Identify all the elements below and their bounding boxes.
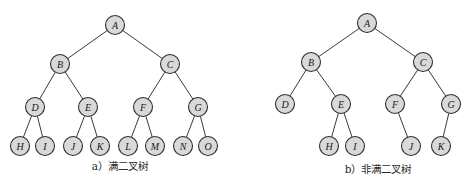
- figure-caption: b）非满二叉树: [345, 163, 413, 175]
- edge-G-N: [186, 116, 194, 137]
- edge-B-E: [65, 72, 83, 99]
- tree-node-I: I: [346, 137, 365, 156]
- tree-node-M: M: [146, 137, 165, 156]
- tree-node-G: G: [442, 95, 461, 114]
- tree-node-K: K: [432, 137, 451, 156]
- node-label: A: [363, 18, 371, 29]
- tree-node-I: I: [36, 137, 55, 156]
- node-label: D: [280, 99, 289, 110]
- tree-node-B: B: [302, 53, 321, 72]
- non-full-binary-tree: ABCDEFGHIJKb）非满二叉树: [276, 14, 461, 176]
- node-label: N: [179, 141, 188, 152]
- edge-A-C: [123, 30, 163, 58]
- node-label: G: [447, 99, 454, 110]
- node-label: E: [84, 102, 91, 113]
- node-label: I: [352, 141, 357, 152]
- edge-G-O: [200, 116, 205, 137]
- full-binary-tree: ABCDEFGHIJKLMNOa）满二叉树: [11, 16, 218, 173]
- tree-node-B: B: [51, 55, 70, 74]
- tree-node-L: L: [119, 137, 138, 156]
- edge-A-B: [68, 30, 108, 58]
- tree-node-D: D: [26, 98, 45, 117]
- tree-node-J: J: [64, 137, 83, 156]
- tree-node-N: N: [174, 137, 193, 156]
- tree-node-A: A: [358, 14, 377, 33]
- edge-C-F: [400, 70, 417, 96]
- node-label: C: [420, 57, 427, 68]
- tree-node-E: E: [332, 95, 351, 114]
- node-label: K: [437, 141, 446, 152]
- edge-B-D: [290, 70, 306, 96]
- edge-F-J: [398, 113, 407, 137]
- edge-E-H: [332, 113, 339, 137]
- edge-F-L: [131, 116, 139, 137]
- node-label: I: [42, 141, 47, 152]
- edge-D-H: [23, 116, 31, 137]
- edge-E-I: [344, 113, 352, 137]
- node-label: C: [167, 59, 174, 70]
- binary-tree-figures: ABCDEFGHIJKLMNOa）满二叉树 ABCDEFGHIJKb）非满二叉树: [0, 0, 473, 183]
- edge-B-D: [40, 72, 55, 99]
- node-label: F: [391, 99, 399, 110]
- tree-node-F: F: [134, 98, 153, 117]
- node-label: J: [71, 141, 76, 152]
- tree-node-H: H: [11, 137, 30, 156]
- node-label: G: [194, 102, 201, 113]
- edge-C-G: [428, 70, 445, 96]
- edge-B-E: [317, 70, 336, 97]
- node-label: D: [30, 102, 39, 113]
- tree-node-C: C: [414, 53, 433, 72]
- node-label: A: [111, 20, 119, 31]
- node-label: E: [337, 99, 344, 110]
- node-label: B: [57, 59, 63, 70]
- node-label: L: [124, 141, 131, 152]
- node-label: O: [204, 141, 211, 152]
- tree-node-G: G: [189, 98, 208, 117]
- tree-node-C: C: [161, 55, 180, 74]
- node-label: B: [308, 57, 314, 68]
- node-label: K: [96, 141, 105, 152]
- edge-E-K: [91, 116, 97, 137]
- node-label: J: [409, 141, 414, 152]
- edge-A-C: [375, 28, 415, 56]
- edge-E-J: [76, 116, 84, 137]
- tree-node-J: J: [402, 137, 421, 156]
- edge-G-K: [443, 113, 449, 137]
- edge-D-I: [37, 116, 42, 137]
- figure-caption: a）满二叉树: [92, 160, 149, 172]
- edge-A-B: [319, 28, 359, 56]
- node-label: F: [139, 102, 147, 113]
- edge-C-F: [148, 72, 165, 99]
- node-label: H: [15, 141, 24, 152]
- node-label: M: [150, 141, 160, 152]
- tree-node-D: D: [276, 95, 295, 114]
- edge-F-M: [146, 116, 152, 137]
- tree-node-O: O: [199, 137, 218, 156]
- tree-node-E: E: [79, 98, 98, 117]
- node-label: H: [324, 141, 333, 152]
- tree-node-A: A: [106, 16, 125, 35]
- tree-node-F: F: [386, 95, 405, 114]
- edge-C-G: [175, 72, 193, 99]
- tree-node-K: K: [91, 137, 110, 156]
- tree-node-H: H: [320, 137, 339, 156]
